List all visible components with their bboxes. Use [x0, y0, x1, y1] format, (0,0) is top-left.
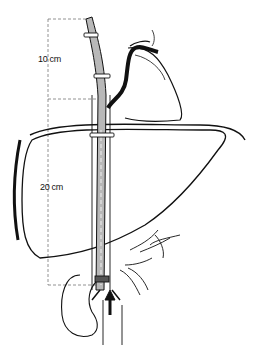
segment-label-10cm: 10 cm [38, 54, 61, 64]
catheter [108, 47, 158, 108]
heart [125, 30, 182, 121]
lower-vessels [103, 300, 122, 345]
vessels [120, 230, 180, 295]
flow-arrows [92, 290, 120, 315]
segment-label-20cm: 20 cm [40, 182, 63, 192]
